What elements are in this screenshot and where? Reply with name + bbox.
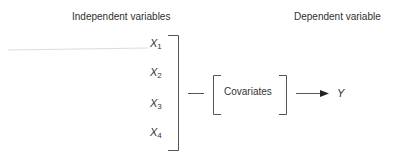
covariates-left-bracket xyxy=(214,76,222,115)
variable-subscript: 3 xyxy=(157,102,161,111)
diagram-lines xyxy=(0,0,400,154)
variable-x4: X4 xyxy=(150,126,162,140)
variable-subscript: 4 xyxy=(157,131,161,140)
variable-subscript: 1 xyxy=(157,42,161,51)
dependent-variable-y: Y xyxy=(337,87,344,99)
covariates-right-bracket xyxy=(279,76,287,115)
independent-variables-heading: Independent variables xyxy=(72,11,170,22)
arrow-head-icon xyxy=(320,90,329,97)
variable-x2: X2 xyxy=(150,66,162,80)
dependent-variable-heading: Dependent variable xyxy=(294,11,381,22)
variable-subscript: 2 xyxy=(157,71,161,80)
faint-line xyxy=(8,48,148,50)
independent-bracket xyxy=(168,36,179,151)
variable-x3: X3 xyxy=(150,97,162,111)
covariates-label: Covariates xyxy=(224,86,272,97)
variable-x1: X1 xyxy=(150,37,162,51)
